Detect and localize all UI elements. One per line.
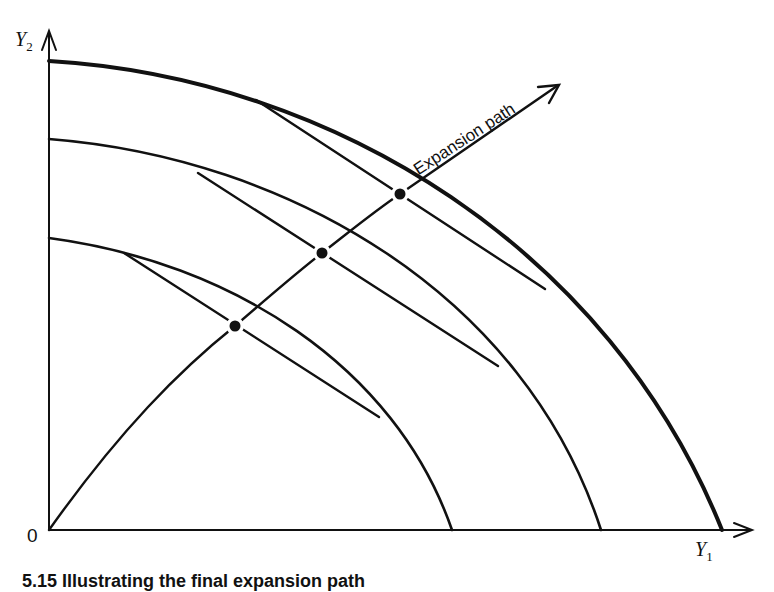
expansion-path (49, 85, 559, 530)
axes (42, 31, 752, 537)
y-axis-label-main: Y (15, 28, 26, 50)
tangent-lines (124, 100, 545, 417)
inner-ppf-curve (49, 238, 452, 530)
tangency-dot-middle (317, 248, 328, 259)
middle-ppf-curve (49, 139, 601, 530)
outer-ppf-curve (49, 61, 722, 530)
x-axis-label: Y1 (695, 538, 713, 565)
ppf-curves (49, 61, 722, 530)
x-axis-label-main: Y (695, 538, 706, 560)
figure-caption: 5.15 Illustrating the final expansion pa… (22, 571, 365, 592)
x-axis-label-subscript: 1 (706, 549, 713, 564)
origin-label: 0 (27, 525, 38, 547)
tangency-dot-outer (395, 189, 406, 200)
tangency-dot-inner (230, 321, 241, 332)
y-axis-label: Y2 (15, 28, 33, 55)
y-axis-label-subscript: 2 (26, 39, 33, 54)
middle-tangent-line (198, 173, 498, 366)
expansion-path-line (49, 86, 557, 530)
